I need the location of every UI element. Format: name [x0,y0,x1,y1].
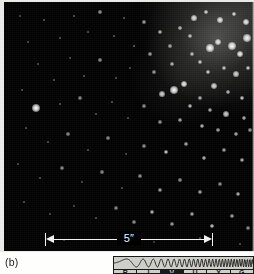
star-point [25,127,28,130]
star-point [95,217,98,220]
star-cluster-photograph: 5″ [4,2,254,251]
star-point [17,163,20,166]
star-point [164,150,169,155]
star-point [32,104,40,112]
star-point [125,153,128,156]
star-point [191,15,196,20]
star-point [181,81,187,87]
star-point [222,66,226,70]
star-point [133,45,136,48]
star-point [226,90,230,94]
rivuxg-spectrum-bar: RIVUXG [113,256,254,274]
star-point [233,71,238,76]
star-point [100,170,103,173]
star-point [202,156,206,160]
star-point [27,41,30,44]
star-point [23,201,26,204]
star-point [222,148,226,152]
spectrum-band-ultraviolet: U [183,269,206,274]
star-point [158,188,162,192]
starfield [4,2,254,251]
star-point [246,226,249,229]
spectrum-band-visible: V [160,269,183,274]
star-point [198,60,202,64]
star-point [237,51,244,58]
star-point [243,19,249,25]
star-point [232,12,237,17]
star-point [188,104,192,108]
star-point [59,103,62,106]
star-point [87,149,90,152]
star-point [168,44,171,47]
star-point [73,205,76,208]
star-point [106,136,109,139]
star-point [239,243,242,246]
star-point [178,26,182,30]
star-point [240,158,244,162]
spectrum-waveform-icon [114,257,253,269]
star-point [49,213,52,216]
star-point [206,70,211,75]
star-point [47,141,50,144]
star-point [132,220,135,223]
star-point [215,39,221,45]
star-point [159,91,164,96]
star-point [37,63,40,66]
star-point [217,17,223,23]
star-point [198,190,202,194]
star-point [98,58,101,61]
star-point [66,132,69,135]
star-point [216,128,220,132]
star-point [78,96,81,99]
star-point [228,42,237,51]
scale-bar-right-arrow-icon [204,235,212,243]
star-point [138,174,141,177]
spectrum-band-radio: R [114,269,136,274]
star-point [152,70,155,73]
spectrum-band-gamma: G [230,269,253,274]
star-point [206,44,213,51]
star-point [234,132,238,136]
star-point [142,20,145,23]
spectrum-band-xray: X [206,269,229,274]
star-point [246,66,250,70]
star-point [198,96,202,100]
star-point [142,144,145,147]
star-point [115,77,118,80]
star-point [87,31,90,34]
star-point [248,128,251,131]
star-point [158,30,162,34]
star-point [210,224,215,229]
star-point [73,15,76,18]
star-point [178,118,182,122]
star-point [158,120,161,123]
star-point [129,67,132,70]
star-point [243,34,251,42]
star-point [19,15,21,17]
star-point [111,101,114,104]
star-point [39,177,42,180]
star-point [242,116,246,120]
star-point [127,117,130,120]
star-point [211,83,217,89]
star-point [170,62,174,66]
star-point [123,17,126,20]
star-point [53,79,56,82]
figure-panel-b: 5″ (b) RIVUXG [0,0,254,274]
star-point [81,181,84,184]
star-point [148,52,151,55]
star-point [190,52,194,56]
star-point [208,108,212,112]
star-point [121,187,124,190]
star-point [69,57,72,60]
star-point [98,10,101,13]
star-point [190,212,194,216]
scale-bar-label: 5″ [117,231,141,245]
scale-bar: 5″ [45,233,213,247]
star-point [114,206,117,209]
star-point [142,104,145,107]
star-point [223,111,228,116]
star-point [184,142,188,146]
star-point [95,113,98,116]
scale-bar-left-arrow-icon [46,235,54,243]
